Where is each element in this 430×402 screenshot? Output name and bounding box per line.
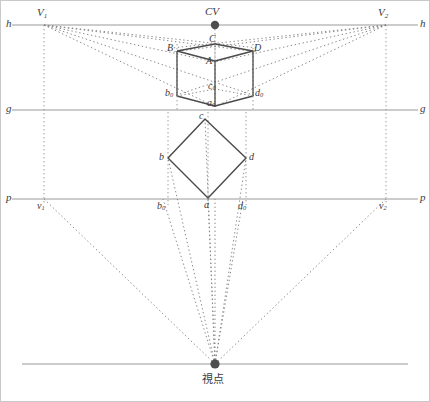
plan-d-base: d <box>249 151 254 162</box>
cube-B-base: B <box>167 42 173 53</box>
plan-vertex-label-a: a <box>204 200 209 211</box>
plan-projection-label-b0: b0 <box>157 201 165 212</box>
cube-vertex-label-D: D <box>254 43 261 54</box>
plan-vertex-label-b: b <box>159 152 164 163</box>
ground-label-right: g <box>420 103 426 114</box>
plan-vertex-label-c: c <box>199 111 203 122</box>
vanishing-point-v1-label: V1 <box>37 7 47 20</box>
cube-C-base: C <box>209 33 216 44</box>
station-point-marker <box>210 359 219 368</box>
cube-vertex-label-c0: c0 <box>208 81 216 92</box>
center-of-vision-point <box>211 21 219 29</box>
center-of-vision-label: CV <box>205 6 219 17</box>
cube-vertex-label-A: A <box>206 56 212 67</box>
cube-a0-sub: 0 <box>212 101 215 108</box>
perspective-diagram-figure: h h g g p p CV V1 V2 v1 v2 B C D A b0 c0… <box>0 0 430 402</box>
cube-b0-sub: 0 <box>170 91 173 98</box>
proj-d0-sub: 0 <box>243 204 246 211</box>
plan-vanishing-point-v2-label: v2 <box>379 201 387 212</box>
cube-d0-sub: 0 <box>260 91 263 98</box>
plan-a-base: a <box>204 199 209 210</box>
cube-vertex-label-B: B <box>167 43 173 54</box>
picture-plane-label-right: p <box>420 192 426 203</box>
v2-base: V <box>378 6 385 18</box>
plan-projection-label-d0: d0 <box>238 201 246 212</box>
plan-v2-sub: 2 <box>383 204 386 211</box>
plan-c-base: c <box>199 110 203 121</box>
cube-vertex-label-C: C <box>209 34 216 45</box>
vanishing-point-v2-label: V2 <box>378 7 388 20</box>
picture-plane-label-left: p <box>6 192 12 203</box>
cube-A-base: A <box>206 55 212 66</box>
cube-vertex-label-a0: a0 <box>207 98 215 109</box>
plan-v1-sub: 1 <box>41 204 44 211</box>
cube-vertex-label-b0: b0 <box>165 88 173 99</box>
cube-D-base: D <box>254 42 261 53</box>
horizon-label-right: h <box>420 18 426 29</box>
cube-c0-sub: 0 <box>212 84 215 91</box>
plan-vanishing-point-v1-label: v1 <box>37 201 45 212</box>
plan-vertex-label-d: d <box>249 152 254 163</box>
horizon-label-left: h <box>6 18 12 29</box>
proj-b0-sub: 0 <box>162 204 165 211</box>
diagram-canvas <box>0 0 430 402</box>
v1-sub: 1 <box>44 12 48 20</box>
v2-sub: 2 <box>385 12 389 20</box>
plan-b-base: b <box>159 151 164 162</box>
station-point-label: 視点 <box>202 374 224 385</box>
ground-label-left: g <box>6 103 12 114</box>
v1-base: V <box>37 6 44 18</box>
cube-vertex-label-d0: d0 <box>255 88 263 99</box>
